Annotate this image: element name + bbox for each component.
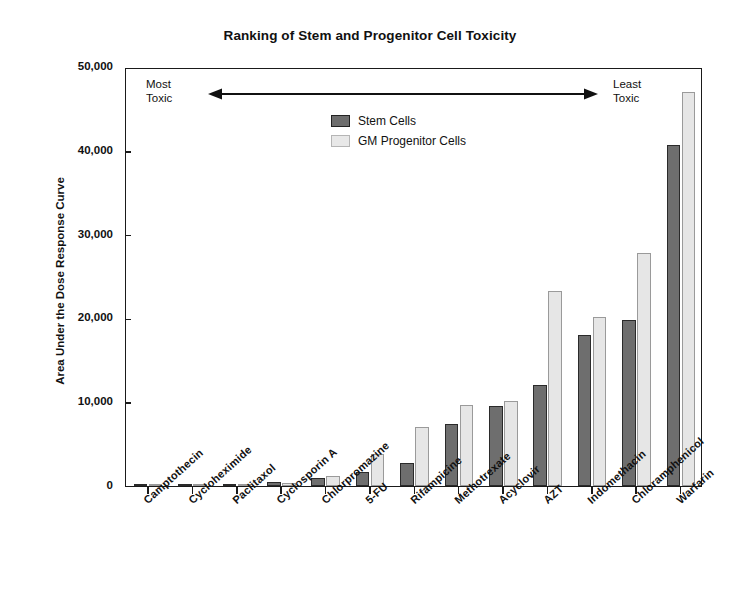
bars-layer	[126, 69, 701, 486]
y-axis-tick-mark	[125, 319, 131, 321]
bar-stem-cells	[400, 463, 414, 486]
bar-stem-cells	[578, 335, 592, 486]
bar-stem-cells	[134, 484, 148, 486]
y-axis-tick-label: 40,000	[78, 144, 113, 156]
bar-gm-progenitor-cells	[415, 427, 429, 486]
y-axis-tick-label: 30,000	[78, 228, 113, 240]
bar-stem-cells	[178, 484, 192, 486]
y-axis-tick-label: 0	[107, 479, 113, 491]
y-axis-tick-mark	[125, 151, 131, 153]
chart-title: Ranking of Stem and Progenitor Cell Toxi…	[0, 28, 740, 43]
bar-gm-progenitor-cells	[460, 405, 474, 486]
bar-stem-cells	[667, 145, 681, 486]
plot-area: Most Toxic Least Toxic Stem Cells GM Pro…	[125, 68, 702, 487]
chart-figure: Ranking of Stem and Progenitor Cell Toxi…	[0, 0, 740, 603]
bar-gm-progenitor-cells	[548, 291, 562, 486]
y-axis-title: Area Under the Dose Response Curve	[54, 71, 66, 491]
y-axis-tick-mark	[125, 402, 131, 404]
bar-gm-progenitor-cells	[682, 92, 696, 486]
bar-stem-cells	[267, 482, 281, 486]
bar-gm-progenitor-cells	[504, 401, 518, 486]
bar-gm-progenitor-cells	[593, 317, 607, 486]
y-axis-tick-label: 10,000	[78, 395, 113, 407]
bar-stem-cells	[311, 478, 325, 486]
bar-stem-cells	[223, 484, 237, 486]
y-axis-tick-label: 20,000	[78, 311, 113, 323]
y-axis-tick-mark	[125, 235, 131, 237]
y-axis-tick-label: 50,000	[78, 60, 113, 72]
